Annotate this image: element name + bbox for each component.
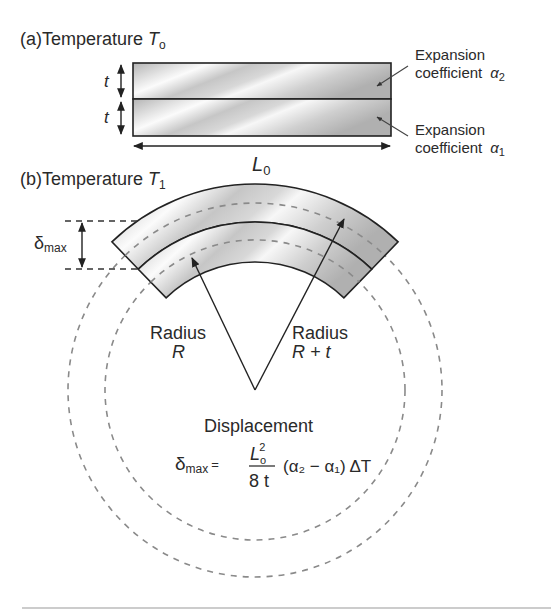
- bimetal-strip-diagram: (a)Temperature To t t L0 Expansion coeff…: [0, 0, 551, 616]
- radius-r-label-line2: R: [172, 342, 185, 362]
- radius-r-plus-t-label-line2: R + t: [292, 342, 332, 362]
- displacement-label: Displacement: [204, 416, 313, 436]
- panel-a-title: (a)Temperature To: [20, 29, 166, 52]
- alpha2-label: coefficientα2: [415, 64, 505, 83]
- formula-denominator: 8 t: [249, 471, 269, 491]
- alpha1-label-line1: Expansion: [415, 121, 485, 138]
- panel-b-title: (b)Temperature T1: [20, 169, 166, 192]
- thickness-label-top: t: [104, 72, 110, 91]
- radius-r-label-line1: Radius: [150, 323, 206, 343]
- radius-r-plus-t-label-line1: Radius: [292, 323, 348, 343]
- displacement-formula: δmax= Lo2 8 t (α₂ − α₁) ΔT: [175, 441, 371, 491]
- formula-rest: (α₂ − α₁) ΔT: [283, 457, 371, 476]
- thickness-label-bottom: t: [104, 108, 110, 127]
- delta-max-label: δmax: [34, 233, 67, 255]
- panel-b: (b)Temperature T1 δmax Radius R Radius R…: [20, 169, 442, 577]
- alpha2-label-line1: Expansion: [415, 46, 485, 63]
- bottom-layer-alpha1: [133, 99, 391, 136]
- length-label: L0: [252, 153, 270, 178]
- panel-a: (a)Temperature To t t L0 Expansion coeff…: [20, 29, 505, 178]
- formula-lhs: δmax=: [175, 453, 219, 476]
- alpha1-label: coefficientα1: [415, 139, 505, 158]
- top-layer-alpha2: [133, 63, 391, 99]
- formula-numerator: Lo2: [250, 441, 266, 466]
